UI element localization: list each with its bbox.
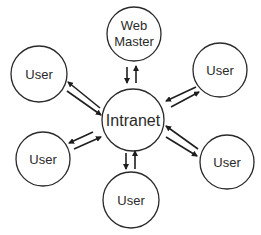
edge-intranet-webmaster: [127, 66, 136, 83]
arrow-down-right-icon: [166, 137, 197, 156]
edge-intranet-user-bottom: [126, 151, 135, 169]
arrow-up-left-icon: [166, 126, 198, 149]
edge-intranet-user-bottom-left: [69, 132, 101, 149]
diagram-canvas: Intranet Web Master User User User User …: [0, 0, 261, 235]
edge-intranet-user-top-right: [166, 87, 199, 107]
node-intranet: Intranet: [102, 89, 164, 151]
webmaster-label-line2: Master: [114, 34, 154, 49]
webmaster-label-line1: Web: [121, 18, 148, 33]
node-user-bottom: User: [103, 172, 159, 228]
node-webmaster: Web Master: [107, 7, 161, 61]
intranet-label: Intranet: [106, 112, 161, 129]
user-label: User: [206, 63, 234, 78]
user-label: User: [25, 67, 53, 82]
node-user-top-left: User: [11, 46, 67, 102]
arrow-down-left-icon: [166, 87, 196, 101]
user-label: User: [29, 152, 57, 167]
edge-intranet-user-bottom-right: [166, 126, 198, 156]
intranet-diagram: Intranet Web Master User User User User …: [0, 0, 261, 235]
edge-intranet-user-top-left: [67, 82, 101, 115]
node-user-bottom-right: User: [200, 135, 254, 189]
user-label: User: [213, 155, 241, 170]
arrow-up-right-icon: [171, 92, 199, 107]
node-user-top-right: User: [193, 43, 247, 97]
node-user-bottom-left: User: [16, 132, 70, 186]
user-label: User: [117, 193, 145, 208]
